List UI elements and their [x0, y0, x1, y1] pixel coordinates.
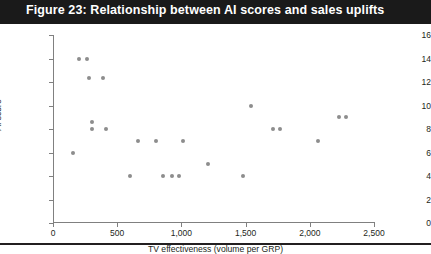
y-axis-tick-label: 12 — [387, 78, 431, 87]
scatter-point — [77, 57, 81, 61]
scatter-plot-area — [53, 35, 374, 223]
x-axis-title: TV effectiveness (volume per GRP) — [0, 244, 431, 254]
scatter-point — [181, 139, 185, 143]
x-axis-tick-label: 1,500 — [226, 229, 266, 238]
scatter-point — [85, 57, 89, 61]
y-axis-tick-label: 14 — [387, 55, 431, 64]
y-axis-tick-label: 0 — [387, 219, 431, 228]
x-axis-tick — [374, 223, 375, 227]
x-axis-tick-label: 2,000 — [290, 229, 330, 238]
scatter-point — [278, 127, 282, 131]
y-axis-tick-label: 8 — [387, 125, 431, 134]
y-axis-tick-label: 16 — [387, 31, 431, 40]
figure-title: Figure 23: Relationship between AI score… — [26, 3, 384, 17]
scatter-point — [154, 139, 158, 143]
x-axis-tick-label: 500 — [97, 229, 137, 238]
scatter-point — [71, 151, 75, 155]
y-axis-tick-label: 4 — [387, 172, 431, 181]
x-axis-tick — [53, 223, 54, 227]
y-axis-title: AI score — [0, 99, 3, 131]
y-axis-tick-label: 6 — [387, 149, 431, 158]
scatter-point — [241, 174, 245, 178]
x-axis-tick-label: 2,500 — [354, 229, 394, 238]
scatter-point — [136, 139, 140, 143]
x-axis-tick — [310, 223, 311, 227]
scatter-point — [316, 139, 320, 143]
plot-wrapper: AI score 0246810121416 05001,0001,5002,0… — [0, 24, 431, 230]
x-axis-tick — [117, 223, 118, 227]
y-axis-tick-label: 10 — [387, 102, 431, 111]
x-axis-tick-label: 0 — [33, 229, 73, 238]
scatter-point — [90, 120, 94, 124]
title-bar: Figure 23: Relationship between AI score… — [0, 0, 431, 24]
scatter-point — [177, 174, 181, 178]
scatter-point — [90, 127, 94, 131]
x-axis-tick-label: 1,000 — [161, 229, 201, 238]
scatter-point — [128, 174, 132, 178]
bottom-divider — [0, 243, 431, 245]
scatter-point — [249, 104, 253, 108]
x-axis-tick — [246, 223, 247, 227]
figure-container: Figure 23: Relationship between AI score… — [0, 0, 431, 254]
y-axis-tick-label: 2 — [387, 196, 431, 205]
x-axis-tick — [181, 223, 182, 227]
